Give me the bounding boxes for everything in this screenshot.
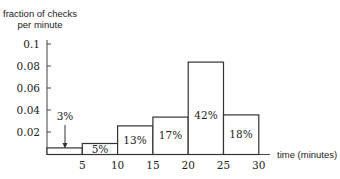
bars bbox=[47, 62, 259, 154]
x-tick-label: 30 bbox=[252, 159, 265, 171]
bar-label: 42% bbox=[194, 109, 217, 121]
bar-label: 5% bbox=[92, 143, 109, 155]
bar-label: 13% bbox=[123, 134, 146, 146]
x-axis-label: time (minutes) bbox=[277, 149, 337, 160]
x-tick-label: 5 bbox=[79, 159, 86, 171]
bar-0-5 bbox=[47, 148, 82, 155]
x-tick-label: 20 bbox=[182, 159, 195, 171]
y-axis-label-line1: fraction of checks bbox=[3, 8, 77, 19]
y-tick-label: 0.04 bbox=[17, 104, 41, 116]
bar-label: 18% bbox=[229, 128, 252, 140]
y-tick-label: 0.02 bbox=[17, 126, 40, 138]
bar-label: 17% bbox=[159, 129, 182, 141]
annotation-label: 3% bbox=[57, 110, 74, 122]
x-ticks: 5 10 15 20 25 30 bbox=[79, 159, 266, 171]
histogram-chart: fraction of checks per minute 0.02 0.04 … bbox=[0, 0, 340, 179]
y-ticks: 0.02 0.04 0.06 0.08 0.1 bbox=[17, 38, 51, 138]
y-axis-label-line2: per minute bbox=[18, 19, 63, 30]
x-tick-label: 10 bbox=[111, 159, 124, 171]
y-tick-label: 0.1 bbox=[23, 38, 40, 50]
x-tick-label: 15 bbox=[146, 159, 159, 171]
x-tick-label: 25 bbox=[217, 159, 230, 171]
y-tick-label: 0.06 bbox=[17, 82, 41, 94]
y-tick-label: 0.08 bbox=[17, 60, 40, 72]
